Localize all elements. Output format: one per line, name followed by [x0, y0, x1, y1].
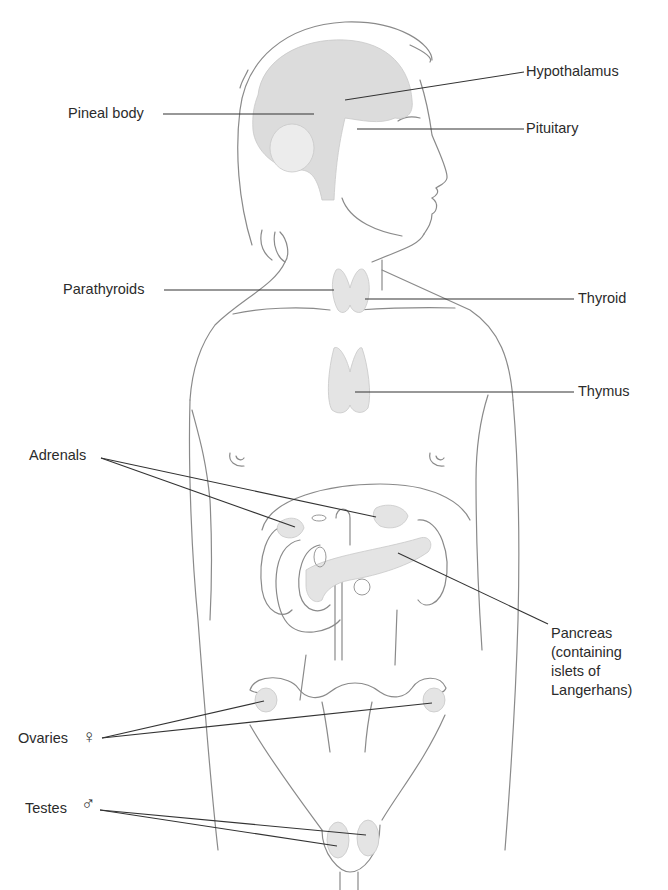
- adrenal-left: [277, 518, 304, 538]
- testis-right: [357, 820, 379, 856]
- label-thyroid: Thyroid: [578, 290, 626, 307]
- leader-ovary-left: [102, 701, 264, 738]
- label-parathyroids: Parathyroids: [63, 281, 144, 298]
- male-symbol-icon: ♂: [81, 794, 95, 813]
- label-pineal-body: Pineal body: [68, 105, 144, 122]
- ovary-left: [255, 688, 277, 712]
- leader-testis-left: [100, 810, 337, 846]
- leader-pancreas: [398, 553, 548, 624]
- torso-left: [189, 400, 218, 850]
- leader-adrenal-left: [101, 458, 295, 527]
- label-hypothalamus: Hypothalamus: [526, 63, 619, 80]
- label-testes: Testes: [25, 800, 67, 817]
- torso-right: [505, 400, 519, 850]
- label-adrenals: Adrenals: [29, 447, 86, 464]
- leader-testis-right: [100, 810, 366, 835]
- kidney-right: [418, 520, 447, 605]
- testis-left: [327, 822, 349, 858]
- uterus: [250, 678, 446, 698]
- endocrine-diagram: Hypothalamus Pineal body Pituitary Parat…: [0, 0, 668, 890]
- female-symbol-icon: ♀: [82, 727, 96, 746]
- cerebellum: [270, 124, 314, 172]
- label-pancreas: Pancreas (containing islets of Langerhan…: [551, 624, 632, 700]
- ovary-right: [423, 688, 445, 712]
- label-ovaries: Ovaries: [18, 730, 68, 747]
- thymus-gland: [328, 347, 369, 412]
- adrenal-right: [373, 505, 408, 528]
- leader-lines: [100, 72, 574, 846]
- thyroid-gland: [332, 269, 369, 312]
- label-pituitary: Pituitary: [526, 120, 578, 137]
- brain-shape: [253, 40, 413, 200]
- face-profile: [420, 80, 447, 234]
- label-thymus: Thymus: [578, 383, 630, 400]
